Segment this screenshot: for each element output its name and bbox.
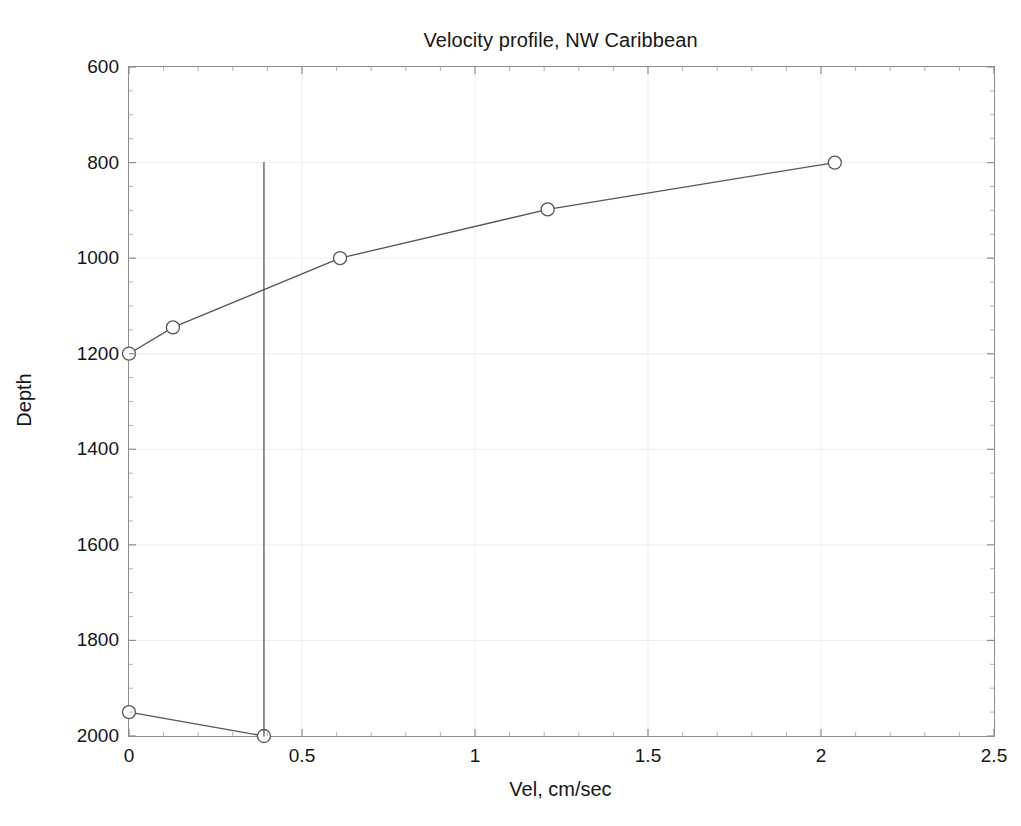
y-tick-label: 2000 xyxy=(77,725,119,747)
y-tick-label: 1800 xyxy=(77,629,119,651)
y-tick-label: 1400 xyxy=(77,438,119,460)
x-tick-label: 0 xyxy=(124,745,135,767)
x-tick-label: 1 xyxy=(470,745,481,767)
x-tick-label: 2 xyxy=(816,745,827,767)
figure-canvas: Velocity profile, NW Caribbean 600800100… xyxy=(0,0,1021,826)
chart-title: Velocity profile, NW Caribbean xyxy=(128,29,993,52)
y-tick-label: 600 xyxy=(87,56,119,78)
x-axis-title: Vel, cm/sec xyxy=(128,778,993,801)
tick-marks-layer xyxy=(129,67,994,736)
y-axis-title: Depth xyxy=(13,373,36,426)
x-tick-label: 2.5 xyxy=(981,745,1007,767)
y-tick-label: 800 xyxy=(87,152,119,174)
y-tick-label: 1000 xyxy=(77,247,119,269)
plot-area: 600800100012001400160018002000 00.511.52… xyxy=(128,66,995,737)
y-tick-label: 1200 xyxy=(77,343,119,365)
y-tick-label: 1600 xyxy=(77,534,119,556)
x-tick-label: 1.5 xyxy=(635,745,661,767)
x-tick-label: 0.5 xyxy=(289,745,315,767)
